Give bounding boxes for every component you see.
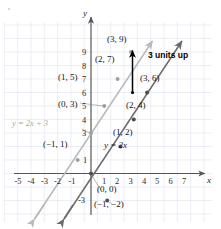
- point-label-3-9: (3, 9): [107, 35, 127, 44]
- point-2-4: [132, 118, 136, 122]
- y-tick-7: 7: [82, 75, 86, 84]
- point-label-3-6: (3, 6): [140, 74, 160, 83]
- y-axis-label: y: [83, 9, 87, 18]
- point-label-0-3: (0, 3): [58, 100, 78, 109]
- x-tick-4: 4: [142, 177, 146, 186]
- x-tick-neg1: -1: [69, 177, 76, 186]
- point-3-6: [145, 91, 149, 95]
- y-tick-3: 3: [82, 129, 86, 138]
- equation-label-dark-line: y = 2x: [104, 141, 127, 150]
- y-tick-9: 9: [82, 48, 86, 57]
- point-0-0: [89, 172, 93, 176]
- point-label-neg1-neg2: (−1, −2): [94, 200, 124, 209]
- point-2-7: [116, 77, 120, 81]
- x-tick-6: 6: [169, 177, 173, 186]
- point-label-2-7: (2, 7): [95, 55, 115, 64]
- y-tick-1: 1: [83, 156, 87, 165]
- three-units-up-annotation: 3 units up: [148, 51, 188, 60]
- point-neg1-1: [76, 158, 80, 162]
- x-tick-5: 5: [155, 177, 159, 186]
- x-axis-label: x: [207, 176, 211, 185]
- line-y-equals-2x-plus-3: [35, 41, 153, 219]
- equation-label-grey-line: y = 2x + 3: [12, 119, 48, 128]
- x-tick-3: 3: [129, 177, 133, 186]
- x-tick-neg5: -5: [15, 177, 22, 186]
- point-label-1-5: (1, 5): [58, 73, 78, 82]
- y-tick-neg3: -3: [78, 196, 85, 205]
- x-tick-neg2: -2: [54, 177, 61, 186]
- point-label-1-2: (1, 2): [113, 128, 133, 137]
- x-tick-7: 7: [182, 177, 186, 186]
- y-tick-4: 4: [82, 116, 86, 125]
- y-tick-6: 6: [82, 89, 86, 98]
- y-tick-8: 8: [82, 62, 86, 71]
- y-tick-5: 5: [82, 102, 86, 111]
- x-tick-neg4: -4: [28, 177, 35, 186]
- x-tick-neg3: -3: [41, 177, 48, 186]
- point-label-2-4: (2, 4): [126, 101, 146, 110]
- point-label-neg1-1: (−1, 1): [43, 140, 68, 149]
- point-label-0-0: (0, 0): [97, 185, 117, 194]
